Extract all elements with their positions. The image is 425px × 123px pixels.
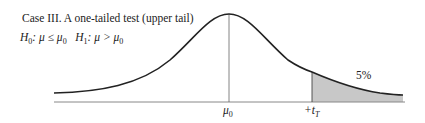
tail-area-label: 5% — [356, 69, 371, 81]
critical-value-label: +tT — [304, 104, 319, 119]
mean-label: μ0 — [223, 104, 233, 119]
bell-curve — [54, 14, 403, 95]
distribution-plot — [0, 0, 425, 123]
